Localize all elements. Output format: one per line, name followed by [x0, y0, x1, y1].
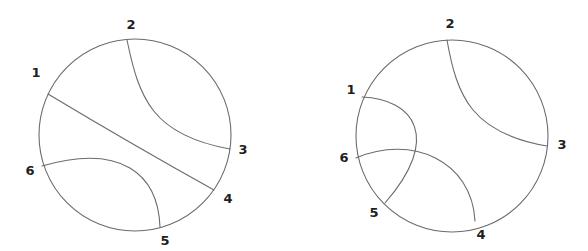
left-chord-1-4: [48, 94, 214, 190]
left-vertex-label-6: 6: [25, 163, 34, 178]
right-vertex-label-2: 2: [445, 16, 454, 31]
right-vertex-label-1: 1: [346, 82, 355, 97]
right-chord-diagram-panel: 1 2 3 4 5 6: [294, 0, 588, 251]
left-circle-outline: [39, 39, 231, 231]
left-vertex-label-1: 1: [31, 65, 40, 80]
left-vertex-label-4: 4: [223, 191, 232, 206]
left-chord-5-6: [42, 158, 160, 227]
right-diagram-svg: 1 2 3 4 5 6: [294, 0, 588, 251]
right-vertex-label-5: 5: [369, 205, 378, 220]
left-vertex-label-5: 5: [160, 233, 169, 248]
left-vertex-label-3: 3: [238, 142, 247, 157]
right-vertex-label-3: 3: [557, 137, 566, 152]
left-chord-2-3: [127, 40, 230, 149]
right-vertex-label-6: 6: [339, 150, 348, 165]
right-vertex-label-4: 4: [476, 227, 485, 242]
figure-root: 1 2 3 4 5 6 1 2 3 4 5 6: [0, 0, 588, 251]
left-vertex-label-2: 2: [126, 17, 135, 32]
right-chord-2-3: [447, 40, 547, 146]
left-chord-diagram-panel: 1 2 3 4 5 6: [0, 0, 294, 251]
left-diagram-svg: 1 2 3 4 5 6: [0, 0, 294, 251]
